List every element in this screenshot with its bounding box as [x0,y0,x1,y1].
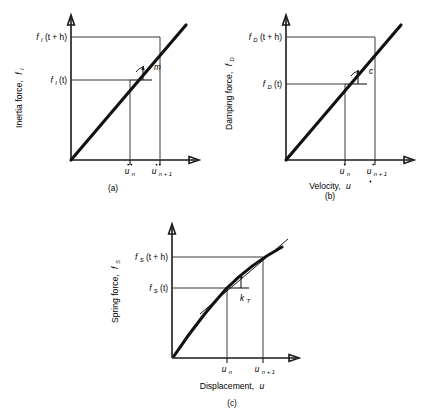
svg-text:Displacement, u: Displacement, u [200,381,265,391]
svg-text:u n: u n [340,166,351,177]
svg-text:f D (t): f D (t) [263,79,282,91]
panel-b-xtick-labels: u n u n + 1 [340,160,387,177]
svg-text:u n + 1: u n + 1 [367,166,387,177]
panel-c-caption: (c) [227,399,237,408]
panel-c-xaxis-title: Displacement, u [200,381,265,391]
panel-c-yaxis-title: Spring force, f S [110,260,121,323]
svg-text:Spring force, f: Spring force, f S [110,260,121,323]
panel-b: Damping force, f D [215,0,431,200]
svg-text:f D (t + h: f D (t + h) [249,32,283,44]
svg-text:u n: u n [125,166,136,177]
svg-text:Velocity, u: Velocity, u [309,181,351,191]
panel-a-guides [71,37,160,160]
svg-text:Inertia force, f: Inertia force, f I [14,68,25,128]
svg-text:m: m [154,63,161,72]
panel-b-guides [286,37,375,160]
panel-c-xtick-labels: u n u n + 1 [222,358,275,375]
panel-a-xtick-labels: u n u n + 1 [125,160,172,177]
svg-text:f I (t + h: f I (t + h) [36,32,67,44]
svg-text:u n + 1: u n + 1 [152,166,172,177]
svg-text:Damping force, f: Damping force, f D [224,57,235,130]
svg-text:c: c [369,67,373,76]
panel-a: Inertia force, f I [0,0,215,200]
figure-container: Inertia force, f I [0,0,431,413]
panel-b-xaxis-title: Velocity, u [309,181,371,191]
panel-a-ytick-labels: f I (t + h) f I (t) [36,32,67,87]
panel-c-ytick-labels: f S (t + h) f S (t) [135,252,168,295]
svg-text:f S (t): f S (t) [149,283,168,295]
panel-a-yaxis-title: Inertia force, f I [14,68,25,128]
svg-text:u n: u n [222,364,233,375]
panel-a-curve [71,25,186,160]
panel-b-yaxis-title: Damping force, f D [224,57,235,130]
panel-c-axes [169,224,299,361]
svg-text:k T: k T [240,294,250,304]
panel-c: Spring force, f S [100,195,331,413]
svg-text:u n + 1: u n + 1 [255,364,275,375]
panel-a-caption: (a) [108,184,118,193]
panel-b-ytick-labels: f D (t + h) f D (t) [249,32,283,91]
svg-text:f S (t + h: f S (t + h) [135,252,168,264]
panel-c-curve [174,247,282,356]
panel-b-curve [286,25,401,160]
svg-text:f I (t): f I (t) [50,75,67,87]
